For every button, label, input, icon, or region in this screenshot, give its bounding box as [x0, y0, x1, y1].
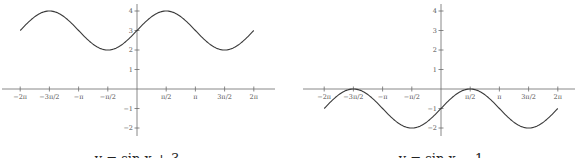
- x-tick-label: −2π: [13, 93, 28, 101]
- y-tick-label: 4: [129, 7, 133, 15]
- x-tick-label: 2π: [250, 93, 259, 101]
- y-tick-label: 1: [433, 66, 437, 74]
- y-tick-label: −2: [427, 124, 437, 132]
- x-tick-label: −π/2: [404, 93, 420, 101]
- x-tick-label: −π/2: [100, 93, 116, 101]
- plot-sin-x-minus-1: −2π−3π/2−π−π/2π/2π3π/22π 4321−1−2 y = si…: [303, 4, 575, 158]
- caption-left: y = sin x + 3: [94, 151, 180, 158]
- y-tick-label: 3: [433, 27, 437, 35]
- x-tick-label: π: [193, 93, 198, 101]
- x-tick-label: π/2: [465, 93, 476, 101]
- x-tick-label: −π: [74, 93, 84, 101]
- axes: [303, 4, 575, 136]
- y-tick-label: −2: [123, 124, 133, 132]
- x-tick-label: 3π/2: [217, 93, 232, 101]
- chart-stage: −2π−3π/2−π−π/2π/2π3π/22π 4321−1−2 y = si…: [0, 0, 575, 158]
- axes: [2, 4, 275, 136]
- x-tick-label: 2π: [554, 93, 563, 101]
- y-tick-label: 2: [129, 46, 133, 54]
- y-tick-label: −1: [427, 105, 437, 113]
- y-tick-label: 3: [129, 27, 133, 35]
- y-tick-label: 2: [433, 46, 437, 54]
- x-tick-label: −2π: [317, 93, 332, 101]
- y-tick-label: 1: [129, 66, 133, 74]
- y-tick-label: 4: [433, 7, 437, 15]
- plot-sin-x-plus-3: −2π−3π/2−π−π/2π/2π3π/22π 4321−1−2 y = si…: [2, 4, 275, 158]
- caption-right: y = sin x − 1: [398, 151, 484, 158]
- x-tick-label: −3π/2: [343, 93, 363, 101]
- x-tick-label: −3π/2: [39, 93, 59, 101]
- x-tick-label: 3π/2: [521, 93, 536, 101]
- y-tick-label: −1: [123, 105, 133, 113]
- x-tick-label: π: [497, 93, 502, 101]
- x-tick-label: π/2: [161, 93, 172, 101]
- x-tick-label: −π: [378, 93, 388, 101]
